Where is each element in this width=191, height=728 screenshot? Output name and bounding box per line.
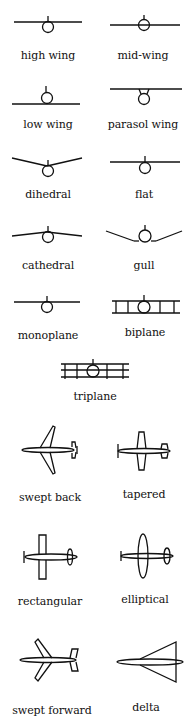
- triplane-icon: [59, 358, 131, 382]
- flat-wing-icon: [108, 152, 182, 178]
- swept-back-icon: [20, 424, 82, 476]
- label-swept-back: swept back: [19, 491, 81, 504]
- label-mid-wing: mid-wing: [118, 49, 169, 62]
- swept-forward-icon: [18, 636, 82, 684]
- label-delta: delta: [132, 701, 160, 714]
- monoplane-icon: [12, 294, 82, 318]
- label-rectangular: rectangular: [18, 595, 82, 608]
- gull-wing-icon: [104, 222, 184, 248]
- low-wing-icon: [10, 84, 82, 108]
- label-gull: gull: [134, 259, 155, 272]
- label-triplane: triplane: [73, 390, 116, 403]
- label-dihedral: dihedral: [25, 188, 71, 201]
- elliptical-wing-icon: [119, 532, 175, 580]
- high-wing-icon: [12, 14, 84, 36]
- label-elliptical: elliptical: [121, 593, 168, 606]
- parasol-wing-icon: [108, 84, 184, 110]
- label-swept-forward: swept forward: [12, 704, 91, 717]
- label-low-wing: low wing: [23, 118, 72, 131]
- rectangular-wing-icon: [22, 533, 80, 581]
- label-tapered: tapered: [123, 488, 166, 501]
- label-monoplane: monoplane: [18, 329, 79, 342]
- label-biplane: biplane: [125, 326, 166, 339]
- dihedral-icon: [10, 152, 84, 178]
- tapered-wing-icon: [116, 430, 174, 474]
- delta-wing-icon: [114, 640, 184, 684]
- label-high-wing: high wing: [21, 49, 75, 62]
- biplane-icon: [110, 294, 182, 318]
- label-parasol-wing: parasol wing: [108, 118, 179, 131]
- label-cathedral: cathedral: [22, 259, 74, 272]
- label-flat: flat: [135, 188, 153, 201]
- mid-wing-icon: [108, 14, 182, 36]
- cathedral-icon: [10, 224, 84, 248]
